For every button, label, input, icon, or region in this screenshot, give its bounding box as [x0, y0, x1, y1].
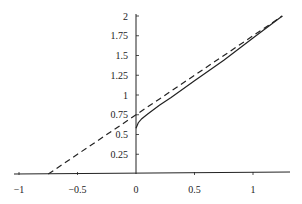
x-tick-label: 1 [251, 184, 256, 195]
x-tick-label: 0.5 [188, 184, 201, 195]
line-chart: −1−0.500.51 0.250.50.7511.251.51.752 [0, 0, 302, 204]
y-axis-ticks: 0.250.50.7511.251.51.752 [111, 11, 140, 160]
y-tick-label: 1.75 [111, 30, 129, 41]
y-tick-label: 1 [123, 90, 128, 101]
x-tick-label: −0.5 [68, 184, 86, 195]
y-tick-label: 0.5 [116, 129, 129, 140]
y-tick-label: 0.75 [111, 109, 129, 120]
curve-line [136, 16, 282, 128]
x-axis-ticks: −1−0.500.51 [14, 172, 256, 195]
x-tick-label: 0 [134, 184, 139, 195]
x-axis [14, 172, 290, 174]
y-tick-label: 1.5 [116, 50, 129, 61]
y-tick-label: 1.25 [111, 70, 129, 81]
y-tick-label: 2 [123, 11, 128, 22]
y-tick-label: 0.25 [111, 149, 129, 160]
asymptote-line [48, 16, 282, 174]
plot-series [48, 16, 282, 174]
x-tick-label: −1 [14, 184, 25, 195]
axes [14, 14, 290, 174]
